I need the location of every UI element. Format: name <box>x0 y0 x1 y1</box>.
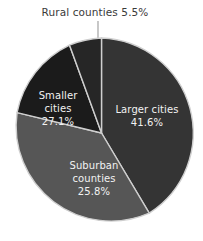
pie-slice-label-suburban-counties-name1: Suburban <box>69 160 118 171</box>
pie-slice-label-suburban-counties-value: 25.8% <box>78 186 110 197</box>
pie-slice-label-smaller-cities-value: 27.1% <box>42 116 74 127</box>
pie-slice-label-suburban-counties-name2: counties <box>72 173 115 184</box>
pie-slice-label-larger-cities-value: 41.6% <box>131 117 163 128</box>
pie-slice-label-smaller-cities-name1: Smaller <box>39 90 79 101</box>
pie-chart: Rural counties 5.5% Larger cities 41.6% … <box>0 0 203 241</box>
pie-slice-label-larger-cities-name: Larger cities <box>115 104 178 115</box>
pie-chart-svg: Larger cities 41.6% Suburban counties 25… <box>0 0 203 241</box>
pie-slice-label-smaller-cities-name2: cities <box>45 103 72 114</box>
